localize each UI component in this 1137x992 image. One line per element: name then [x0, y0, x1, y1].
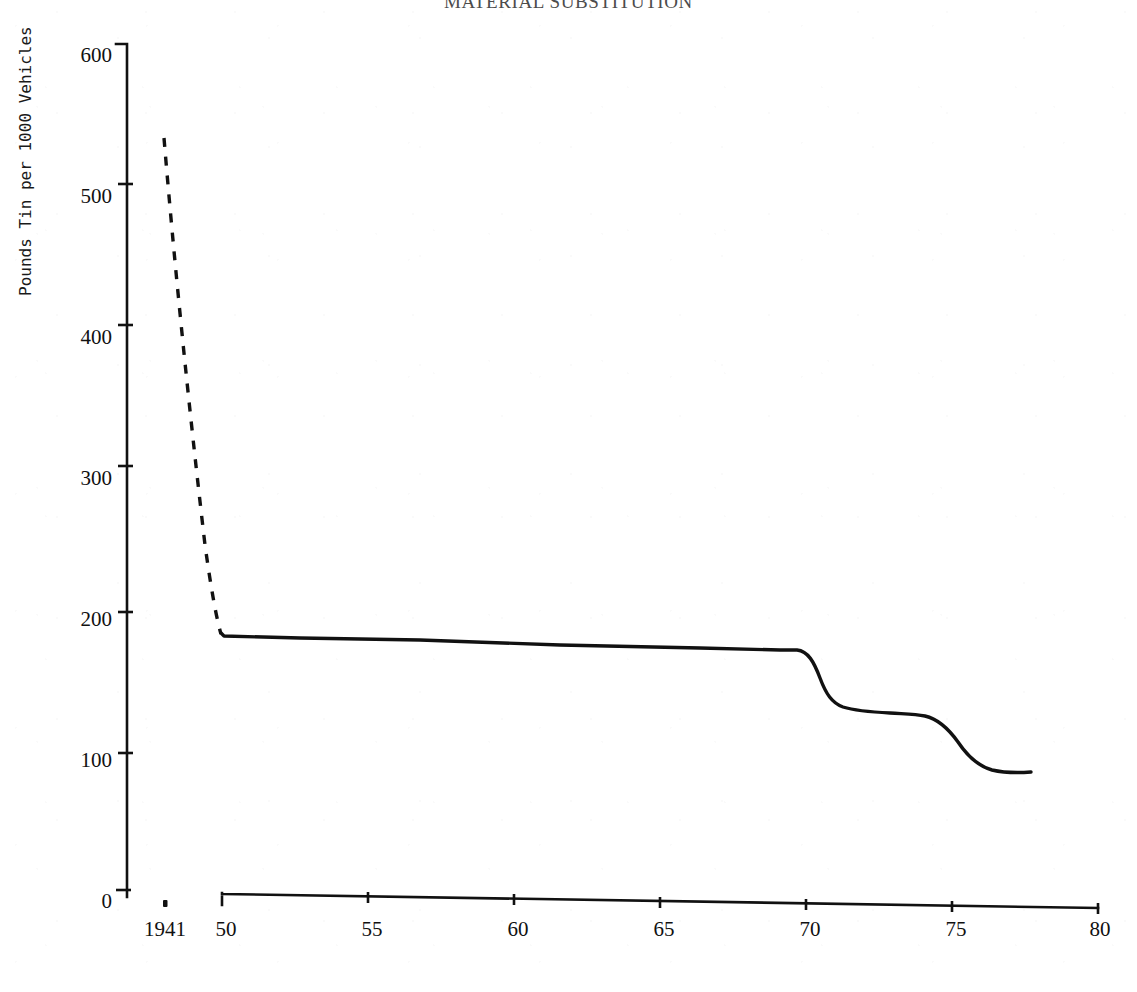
chart-page: MATERIAL SUBSTITUTION Pounds Tin per 100…: [0, 0, 1137, 992]
y-axis-ticks: [116, 184, 133, 890]
plot-area: [0, 0, 1137, 992]
y-axis-line: [116, 44, 127, 897]
series-solid-recorded: [221, 633, 1031, 773]
wartime-start-marker: [163, 900, 168, 907]
series-dashed-wartime: [164, 138, 221, 634]
